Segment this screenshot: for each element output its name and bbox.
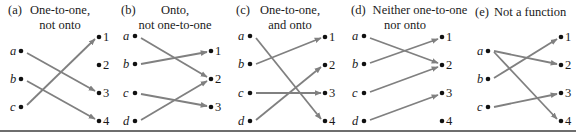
panel-d: (d) Neither one-to-one nor onto a b c d …	[351, 3, 468, 128]
codomain-label-4: 4	[329, 114, 336, 128]
arrow-b-to-4	[27, 81, 95, 119]
domain-dot-b	[248, 62, 253, 67]
domain-label-a: a	[10, 44, 16, 58]
domain-label-c: c	[238, 86, 244, 100]
domain-dot-a	[133, 34, 138, 39]
domain-label-b: b	[238, 57, 244, 71]
codomain-dot-2	[440, 63, 445, 68]
codomain-dot-2	[323, 63, 328, 68]
function-mapping-diagrams: (a) One-to-one, not onto a b c 1 2 3 4 (…	[0, 0, 576, 135]
codomain-label-3: 3	[329, 86, 335, 100]
domain-dot-a	[362, 34, 367, 39]
bottom-rule	[0, 130, 576, 132]
domain-label-b: b	[123, 57, 129, 71]
codomain-label-2: 2	[103, 58, 109, 72]
domain-label-a: a	[477, 44, 483, 58]
codomain-label-1: 1	[446, 30, 452, 44]
codomain-dot-4	[559, 119, 564, 124]
codomain-label-3: 3	[446, 86, 452, 100]
domain-label-a: a	[123, 29, 129, 43]
domain-dot-d	[133, 119, 138, 124]
domain-dot-c	[248, 91, 253, 96]
arrow-c-to-3	[494, 94, 557, 107]
codomain-dot-1	[97, 35, 102, 40]
panel-a: (a) One-to-one, not onto a b c 1 2 3 4	[8, 3, 110, 128]
panel-a-title-line2: not onto	[39, 18, 80, 32]
panel-e-title-line1: Not a function	[494, 5, 567, 19]
panel-b-tag: (b)	[121, 3, 136, 17]
domain-dot-c	[19, 105, 24, 110]
domain-dot-d	[362, 119, 367, 124]
codomain-label-4: 4	[103, 114, 110, 128]
domain-dot-c	[362, 91, 367, 96]
domain-dot-c	[486, 105, 491, 110]
codomain-label-2: 2	[446, 58, 452, 72]
domain-label-c: c	[123, 86, 129, 100]
domain-label-c: c	[477, 100, 483, 114]
domain-label-b: b	[477, 72, 483, 86]
codomain-label-1: 1	[103, 30, 109, 44]
domain-label-b: b	[10, 72, 16, 86]
codomain-dot-1	[440, 35, 445, 40]
codomain-dot-1	[559, 35, 564, 40]
codomain-dot-2	[209, 77, 214, 82]
panel-e-tag: (e)	[475, 5, 489, 19]
panel-b: (b) Onto, not one-to-one a b c d 1 2 3	[121, 3, 221, 128]
panel-a-tag: (a)	[8, 3, 22, 17]
panel-c: (c) One-to-one, and onto a b c d 1 2 3 4	[236, 3, 336, 128]
domain-label-d: d	[123, 114, 130, 128]
domain-label-a: a	[352, 29, 358, 43]
panel-b-title-line1: Onto,	[161, 3, 189, 17]
panel-d-tag: (d)	[351, 3, 366, 17]
domain-dot-b	[362, 62, 367, 67]
domain-dot-a	[486, 49, 491, 54]
arrow-b-to-1	[494, 39, 557, 78]
domain-dot-b	[133, 62, 138, 67]
codomain-dot-2	[559, 63, 564, 68]
domain-dot-b	[19, 77, 24, 82]
codomain-dot-3	[323, 91, 328, 96]
panel-a-title-line1: One-to-one,	[30, 3, 90, 17]
codomain-label-4: 4	[565, 114, 572, 128]
codomain-dot-3	[559, 91, 564, 96]
domain-dot-a	[248, 34, 253, 39]
codomain-label-3: 3	[103, 86, 109, 100]
domain-label-a: a	[238, 29, 244, 43]
codomain-label-1: 1	[215, 44, 221, 58]
arrow-d-to-2	[141, 81, 207, 120]
codomain-dot-3	[209, 105, 214, 110]
domain-label-c: c	[10, 100, 16, 114]
codomain-dot-3	[440, 91, 445, 96]
codomain-label-1: 1	[565, 30, 571, 44]
domain-dot-d	[248, 119, 253, 124]
panel-c-title-line1: One-to-one,	[260, 3, 320, 17]
arrow-c-to-1	[27, 39, 95, 105]
codomain-dot-2	[97, 63, 102, 68]
codomain-dot-3	[97, 91, 102, 96]
panel-e: (e) Not a function a b c 1 2 3 4	[475, 5, 572, 128]
codomain-dot-4	[323, 119, 328, 124]
codomain-dot-1	[209, 49, 214, 54]
domain-label-b: b	[352, 57, 358, 71]
codomain-dot-1	[323, 35, 328, 40]
codomain-label-2: 2	[329, 58, 335, 72]
domain-dot-b	[486, 77, 491, 82]
codomain-dot-4	[97, 119, 102, 124]
domain-label-c: c	[352, 86, 358, 100]
codomain-label-4: 4	[446, 114, 453, 128]
domain-dot-c	[133, 91, 138, 96]
domain-label-d: d	[352, 114, 359, 128]
panel-d-title-line1: Neither one-to-one	[373, 3, 468, 17]
codomain-label-3: 3	[215, 100, 221, 114]
arrow-c-to-2	[370, 67, 438, 92]
codomain-dot-4	[440, 119, 445, 124]
panel-d-title-line2: nor onto	[384, 18, 426, 32]
codomain-label-3: 3	[565, 86, 571, 100]
panel-c-tag: (c)	[236, 3, 250, 17]
domain-dot-a	[19, 49, 24, 54]
panel-c-title-line2: and onto	[268, 18, 311, 32]
codomain-label-2: 2	[215, 72, 221, 86]
arrow-d-to-3	[370, 95, 438, 120]
domain-label-d: d	[238, 114, 245, 128]
codomain-label-2: 2	[565, 58, 571, 72]
